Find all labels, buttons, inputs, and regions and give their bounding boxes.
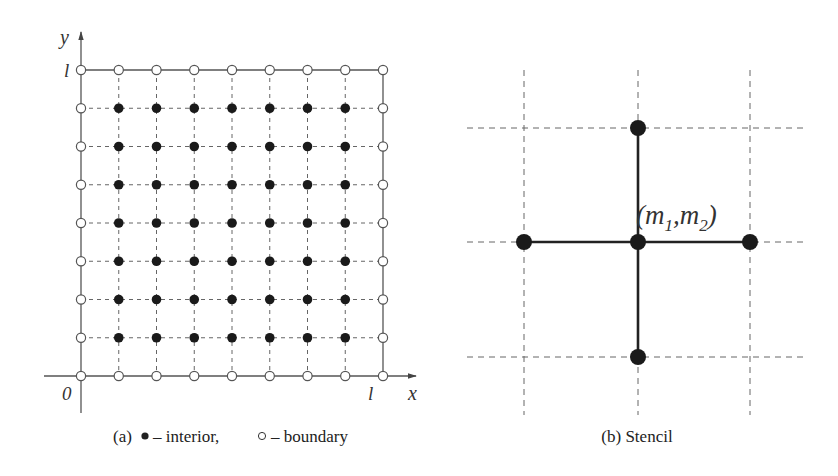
interior-node [227, 295, 237, 305]
boundary-node [76, 371, 85, 380]
interior-node [265, 256, 275, 266]
boundary-node [152, 371, 161, 380]
boundary-node [76, 142, 85, 151]
interior-node [303, 333, 313, 343]
interior-node [303, 218, 313, 228]
interior-node [152, 180, 162, 190]
stencil-left-node [516, 234, 532, 250]
interior-node [227, 218, 237, 228]
interior-node [152, 295, 162, 305]
interior-node [189, 333, 199, 343]
interior-node [303, 142, 313, 152]
interior-node [340, 256, 350, 266]
interior-node [189, 180, 199, 190]
panel-a-grid: y l 0 l x (a) – interior, – boundary [44, 26, 417, 446]
interior-node [152, 142, 162, 152]
interior-node [265, 142, 275, 152]
interior-node [114, 180, 124, 190]
boundary-node [152, 65, 161, 74]
caption-a-prefix: (a) [113, 427, 132, 446]
interior-node [340, 142, 350, 152]
boundary-node [378, 180, 387, 189]
interior-node [227, 103, 237, 113]
boundary-node [190, 65, 199, 74]
caption-b: (b) Stencil [601, 427, 673, 446]
interior-node [340, 333, 350, 343]
interior-node [189, 295, 199, 305]
interior-node [114, 103, 124, 113]
interior-node [265, 295, 275, 305]
boundary-node [303, 371, 312, 380]
caption-a: (a) – interior, – boundary [113, 427, 348, 446]
boundary-node [378, 218, 387, 227]
center-node-label: (m1,m2) [636, 200, 717, 235]
interior-node [303, 256, 313, 266]
interior-node [340, 180, 350, 190]
x-end-label: l [368, 383, 373, 404]
origin-label: 0 [62, 383, 72, 404]
caption-a-interior: – interior, [152, 427, 219, 446]
boundary-node [303, 65, 312, 74]
interior-node [227, 180, 237, 190]
boundary-node [265, 371, 274, 380]
stencil-top-node [630, 120, 646, 136]
boundary-node [114, 65, 123, 74]
boundary-node [378, 333, 387, 342]
boundary-node [378, 104, 387, 113]
boundary-node [341, 371, 350, 380]
interior-node [227, 142, 237, 152]
boundary-node [76, 218, 85, 227]
interior-node [227, 333, 237, 343]
interior-node [114, 295, 124, 305]
boundary-node [378, 295, 387, 304]
interior-node [303, 103, 313, 113]
boundary-node [76, 65, 85, 74]
panel-b-stencil: (m1,m2) (b) Stencil [467, 70, 803, 446]
y-end-label: l [64, 60, 69, 81]
boundary-node [114, 371, 123, 380]
boundary-node [76, 295, 85, 304]
stencil-bottom-node [630, 349, 646, 365]
interior-node [227, 256, 237, 266]
boundary-node [227, 371, 236, 380]
boundary-node [190, 371, 199, 380]
boundary-node [76, 257, 85, 266]
interior-node [265, 180, 275, 190]
interior-node [152, 256, 162, 266]
interior-node [265, 103, 275, 113]
interior-node [152, 333, 162, 343]
interior-node [340, 103, 350, 113]
boundary-node [76, 333, 85, 342]
boundary-node [378, 257, 387, 266]
boundary-node [265, 65, 274, 74]
interior-node [189, 103, 199, 113]
interior-node [114, 333, 124, 343]
interior-node [152, 103, 162, 113]
caption-a-boundary: – boundary [270, 427, 348, 446]
boundary-node [378, 142, 387, 151]
figure: y l 0 l x (a) – interior, – boundary [0, 0, 838, 476]
boundary-node [76, 104, 85, 113]
interior-node [189, 256, 199, 266]
boundary-node [227, 65, 236, 74]
interior-node [152, 218, 162, 228]
interior-node [340, 218, 350, 228]
y-axis-label: y [58, 26, 69, 49]
interior-node [265, 218, 275, 228]
grid-nodes [76, 65, 387, 380]
boundary-node [341, 65, 350, 74]
boundary-node [378, 371, 387, 380]
boundary-node [378, 65, 387, 74]
interior-node [189, 218, 199, 228]
interior-node [303, 295, 313, 305]
interior-node [114, 142, 124, 152]
interior-node [114, 256, 124, 266]
interior-node [189, 142, 199, 152]
interior-node [265, 333, 275, 343]
boundary-legend-icon [258, 432, 265, 439]
stencil-right-node [742, 234, 758, 250]
interior-node [114, 218, 124, 228]
interior-node [340, 295, 350, 305]
interior-node [303, 180, 313, 190]
interior-legend-icon [141, 432, 148, 439]
